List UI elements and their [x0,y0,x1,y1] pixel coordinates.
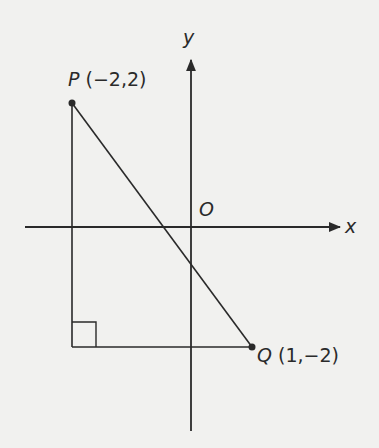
right-angle-marker [72,322,96,347]
point-p [69,100,76,107]
point-p-name: P [68,68,79,90]
segment-pq [72,103,252,347]
coordinate-diagram [0,0,379,448]
point-q [249,344,256,351]
point-q-coords: (1,−2) [278,344,339,366]
point-q-name: Q [257,344,272,366]
origin-label: O [199,200,214,219]
y-axis-label: y [183,28,194,47]
x-axis-label: x [345,217,356,236]
point-p-coords: (−2,2) [86,68,147,90]
point-q-label: Q (1,−2) [257,346,339,365]
point-p-label: P (−2,2) [68,70,146,89]
